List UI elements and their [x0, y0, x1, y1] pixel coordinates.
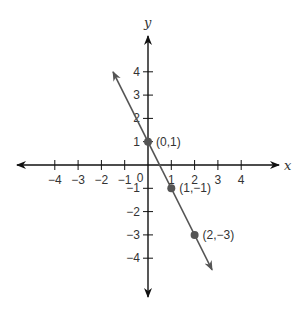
point-label: (0,1)	[156, 135, 181, 149]
coordinate-plane: xy −4−3−2−1123404321−1−2−3−4 (0,1)(1,−1)…	[0, 0, 304, 315]
x-tick-label: −2	[95, 173, 109, 187]
y-tick-label: −2	[126, 205, 140, 219]
line-upper-arrow	[113, 72, 163, 171]
x-axis-label: x	[284, 158, 292, 173]
x-tick-label: 4	[238, 173, 245, 187]
data-point	[167, 184, 175, 192]
data-point	[144, 138, 152, 146]
x-tick-label: −4	[48, 173, 62, 187]
data-point	[191, 231, 199, 239]
y-axis-label: y	[143, 15, 152, 30]
y-tick-label: 1	[133, 135, 140, 149]
y-tick-label: −3	[126, 228, 140, 242]
point-label: (2,−3)	[203, 228, 235, 242]
y-tick-label: 4	[133, 65, 140, 79]
y-tick-label: 3	[133, 88, 140, 102]
point-label: (1,−1)	[179, 181, 211, 195]
y-tick-label: −4	[126, 251, 140, 265]
data-points: (0,1)(1,−1)(2,−3)	[144, 135, 234, 242]
x-tick-label: 3	[215, 173, 222, 187]
x-tick-label: −3	[71, 173, 85, 187]
y-tick-label: −1	[126, 181, 140, 195]
